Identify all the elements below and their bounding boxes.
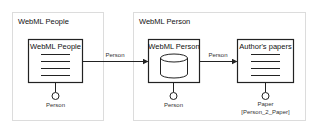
- webml-diagram: WebML People WebML Person WebML People P…: [0, 0, 317, 127]
- unit-title: Author's papers: [239, 42, 292, 51]
- container-title: WebML Person: [139, 17, 190, 26]
- port-circle-icon: [170, 93, 177, 100]
- container-title: WebML People: [18, 17, 69, 26]
- unit-title: WebML People: [30, 42, 81, 51]
- port-label: Person: [46, 102, 65, 108]
- link-label: Person: [105, 52, 124, 58]
- port-label: Paper: [257, 101, 273, 107]
- port-label: Person: [164, 102, 183, 108]
- port-sublabel: [Person_2_Paper]: [241, 109, 290, 115]
- port-circle-icon: [52, 93, 59, 100]
- link-label: Person: [208, 52, 227, 58]
- port-circle-icon: [262, 93, 269, 100]
- unit-title: WebML Person: [148, 42, 199, 51]
